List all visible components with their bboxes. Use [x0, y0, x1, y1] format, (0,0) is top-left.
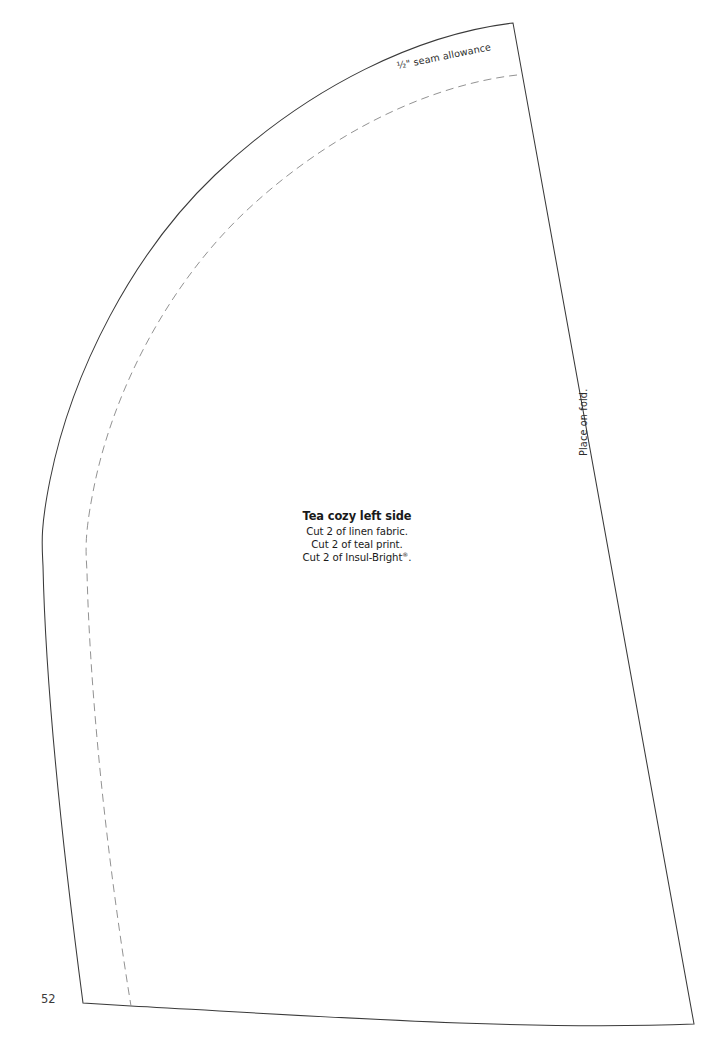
cut-instruction-line-2: Cut 2 of teal print.	[232, 538, 482, 551]
instruction-block: Tea cozy left side Cut 2 of linen fabric…	[232, 509, 482, 565]
cut-instruction-line-1: Cut 2 of linen fabric.	[232, 525, 482, 538]
cut-instruction-line-3-text: Cut 2 of Insul-Bright	[303, 552, 403, 563]
cut-instruction-line-3-period: .	[408, 552, 411, 563]
page-number: 52	[41, 992, 56, 1006]
pattern-piece-title: Tea cozy left side	[232, 509, 482, 524]
pattern-page: ½" seam allowance Place on fold. Tea coz…	[0, 0, 720, 1042]
cut-instruction-line-3: Cut 2 of Insul-Bright®.	[232, 551, 482, 564]
place-on-fold-label: Place on fold.	[578, 389, 589, 456]
